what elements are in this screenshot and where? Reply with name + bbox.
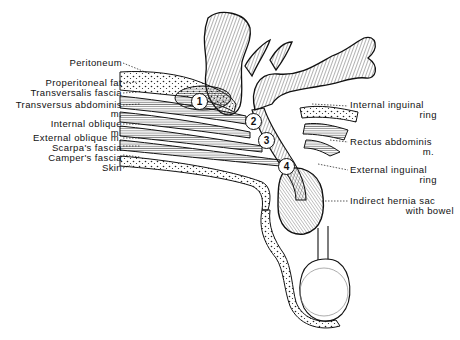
label-external-inguinal-ring: External inguinal [350,165,427,175]
label-skin: Skin [0,163,122,173]
label-with-bowel: with bowel [350,206,454,216]
marker-3: 3 [258,132,275,149]
hernia-sac [278,168,323,234]
label-peritoneum: Peritoneum [46,58,122,68]
label-internal-inguinal-ring-2: ring [350,110,437,120]
label-internal-inguinal-ring: Internal inguinal [350,100,424,110]
marker-4: 4 [278,158,295,175]
label-external-inguinal-ring-2: ring [350,175,437,185]
marker-1: 1 [191,93,208,110]
label-transversalis-fascia: Transversalis fascia [2,88,122,98]
label-rectus-abdominis-m: m. [350,147,434,157]
marker-2: 2 [245,113,262,130]
hernia-diagram: Peritoneum Properitoneal fat Transversal… [0,0,460,340]
testis [300,226,350,321]
label-rectus-abdominis: Rectus abdominis [350,137,432,147]
